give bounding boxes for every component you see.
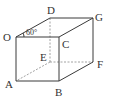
vertex-label-C: C	[62, 38, 69, 50]
angle-label: 60°	[26, 28, 37, 37]
edge-E-A	[16, 62, 50, 81]
vertex-label-F: F	[97, 58, 103, 70]
edge-C-G	[59, 18, 93, 37]
vertex-label-B: B	[55, 86, 62, 98]
vertex-label-O: O	[3, 31, 11, 43]
vertex-label-A: A	[5, 78, 13, 90]
vertex-label-G: G	[95, 11, 103, 23]
angle-arc-O	[23, 33, 24, 37]
vertex-label-D: D	[47, 4, 55, 16]
cuboid-svg: 60° O D G C E F A B	[0, 0, 113, 100]
cuboid-diagram: 60° O D G C E F A B	[0, 0, 113, 100]
edge-B-F	[59, 62, 93, 81]
vertex-label-E: E	[40, 51, 47, 63]
